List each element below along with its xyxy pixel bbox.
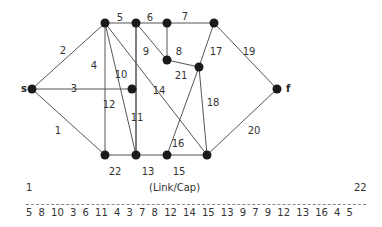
edge-1 xyxy=(32,89,105,155)
edge-label: 20 xyxy=(248,125,261,136)
edge-label: 14 xyxy=(153,85,166,96)
edge-17 xyxy=(199,23,214,67)
edge-label: 16 xyxy=(172,138,185,149)
edge-label: 4 xyxy=(91,60,97,71)
node-f xyxy=(273,85,282,94)
node-B xyxy=(132,19,141,28)
edge-label: 15 xyxy=(173,166,186,177)
edge-label: 2 xyxy=(60,45,66,56)
edge-label: 17 xyxy=(210,46,223,57)
source-node-label: s xyxy=(21,83,27,94)
node-E xyxy=(128,85,137,94)
edge-label: 18 xyxy=(207,97,220,108)
edge-label: 22 xyxy=(109,166,122,177)
node-F xyxy=(163,56,172,65)
caption-start-index: 1 xyxy=(26,182,32,193)
node-C xyxy=(163,19,172,28)
edge-label: 12 xyxy=(103,99,116,110)
edge-label: 11 xyxy=(131,112,144,123)
edge-9 xyxy=(136,23,167,60)
edge-2 xyxy=(32,23,105,89)
edge-label: 9 xyxy=(143,46,149,57)
network-diagram: 12345678910111213141516171819202122sf xyxy=(0,0,382,195)
edge-label: 21 xyxy=(175,70,188,81)
node-G xyxy=(195,63,204,72)
edge-label: 19 xyxy=(243,46,256,57)
edge-21 xyxy=(167,60,199,67)
dashed-divider xyxy=(26,204,366,205)
caption-title: (Link/Cap) xyxy=(149,182,200,193)
edge-label: 10 xyxy=(115,69,128,80)
edge-label: 13 xyxy=(142,166,155,177)
node-A xyxy=(101,19,110,28)
node-J xyxy=(163,151,172,160)
edge-label: 6 xyxy=(147,12,153,23)
edge-label: 8 xyxy=(176,46,182,57)
edge-label: 7 xyxy=(182,11,188,22)
sink-node-label: f xyxy=(286,83,291,94)
edge-18 xyxy=(199,67,207,155)
edge-label: 3 xyxy=(71,83,77,94)
node-H xyxy=(101,151,110,160)
node-K xyxy=(203,151,212,160)
capacity-row: 5 8 10 3 6 11 4 3 7 8 12 14 15 13 9 7 9 … xyxy=(26,207,353,218)
edge-label: 1 xyxy=(55,125,61,136)
edge-label: 5 xyxy=(117,12,123,23)
node-D xyxy=(210,19,219,28)
node-s xyxy=(28,85,37,94)
node-I xyxy=(132,151,141,160)
caption-end-index: 22 xyxy=(354,182,367,193)
